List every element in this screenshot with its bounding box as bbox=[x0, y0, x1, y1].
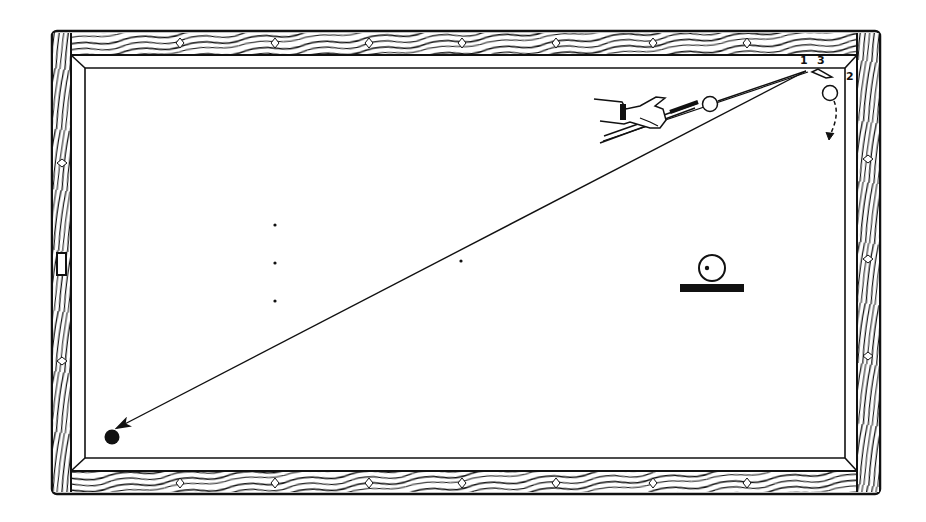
billiard-table-diagram: 1 3 2 bbox=[0, 0, 926, 522]
contact-label-3: 3 bbox=[817, 54, 825, 67]
side-marker bbox=[57, 253, 66, 275]
contact-label-2: 2 bbox=[846, 70, 854, 83]
object-ball bbox=[823, 86, 838, 101]
cue-ball bbox=[703, 97, 718, 112]
target-ball bbox=[105, 430, 120, 445]
contact-label-1: 1 bbox=[800, 54, 808, 67]
table-rails bbox=[52, 31, 880, 494]
